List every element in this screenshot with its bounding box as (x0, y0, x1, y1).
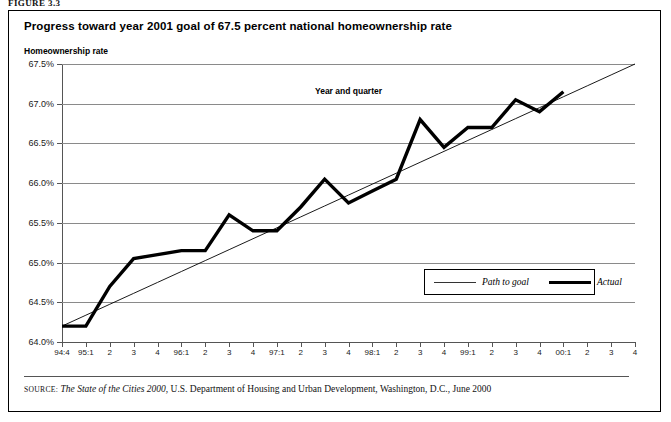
x-tick-mark (611, 342, 612, 347)
x-tick-mark (372, 342, 373, 347)
x-tick-label: 3 (513, 348, 517, 357)
y-tick-label: 67.0% (28, 99, 54, 109)
x-tick-label: 00:1 (556, 348, 572, 357)
x-tick-label: 99:1 (460, 348, 476, 357)
x-tick-label: 98:1 (365, 348, 381, 357)
y-tick-label: 66.0% (28, 178, 54, 188)
x-tick-mark (301, 342, 302, 347)
source-divider (24, 376, 629, 377)
legend-swatch-actual-icon (549, 281, 591, 284)
y-tick-label: 67.5% (28, 59, 54, 69)
x-tick-label: 4 (155, 348, 159, 357)
legend-item-path-to-goal: Path to goal (434, 277, 529, 287)
x-tick-mark (516, 342, 517, 347)
x-tick-label: 3 (131, 348, 135, 357)
x-tick-mark (229, 342, 230, 347)
x-tick-mark (158, 342, 159, 347)
y-axis-title: Homeownership rate (24, 46, 108, 56)
figure-label: FIGURE 3.3 (8, 0, 61, 8)
x-tick-mark (492, 342, 493, 347)
x-axis-title: Year and quarter (315, 86, 382, 96)
x-tick-mark (635, 342, 636, 347)
x-tick-mark (134, 342, 135, 347)
x-tick-mark (468, 342, 469, 347)
x-tick-mark (181, 342, 182, 347)
source-publication: The State of the Cities 2000 (61, 384, 166, 394)
x-tick-mark (110, 342, 111, 347)
x-tick-label: 4 (442, 348, 446, 357)
y-tick-label: 66.5% (28, 138, 54, 148)
x-tick-mark (444, 342, 445, 347)
plot-area: 64.0%64.5%65.0%65.5%66.0%66.5%67.0%67.5%… (62, 64, 635, 342)
x-tick-mark (563, 342, 564, 347)
chart-lines (62, 64, 635, 342)
y-tick-label: 64.0% (28, 337, 54, 347)
x-tick-label: 4 (251, 348, 255, 357)
source-kicker: SOURCE: (24, 385, 58, 394)
x-tick-mark (253, 342, 254, 347)
y-tick-label: 65.0% (28, 258, 54, 268)
x-tick-mark (349, 342, 350, 347)
x-tick-label: 2 (394, 348, 398, 357)
x-tick-mark (587, 342, 588, 347)
x-tick-mark (62, 342, 63, 347)
x-tick-label: 2 (203, 348, 207, 357)
x-tick-mark (540, 342, 541, 347)
x-tick-label: 3 (418, 348, 422, 357)
y-tick-label: 65.5% (28, 218, 54, 228)
x-tick-mark (396, 342, 397, 347)
x-tick-label: 3 (322, 348, 326, 357)
x-tick-mark (277, 342, 278, 347)
source-rest: , U.S. Department of Housing and Urban D… (166, 384, 491, 394)
x-tick-label: 96:1 (174, 348, 190, 357)
legend-item-actual: Actual (549, 277, 622, 287)
x-tick-label: 4 (633, 348, 637, 357)
x-tick-label: 97:1 (269, 348, 285, 357)
chart-title: Progress toward year 2001 goal of 67.5 p… (24, 20, 452, 32)
x-tick-label: 95:1 (78, 348, 94, 357)
y-tick-label: 64.5% (28, 297, 54, 307)
legend-label-path-to-goal: Path to goal (482, 277, 529, 287)
x-tick-label: 4 (537, 348, 541, 357)
x-tick-label: 2 (299, 348, 303, 357)
x-tick-mark (420, 342, 421, 347)
x-tick-label: 3 (609, 348, 613, 357)
x-tick-label: 4 (346, 348, 350, 357)
x-tick-label: 2 (585, 348, 589, 357)
x-tick-mark (205, 342, 206, 347)
x-tick-label: 94:4 (54, 348, 70, 357)
x-tick-mark (325, 342, 326, 347)
chart-legend: Path to goal Actual (424, 269, 595, 295)
x-tick-mark (86, 342, 87, 347)
legend-label-actual: Actual (597, 277, 622, 287)
source-note: SOURCE: The State of the Cities 2000, U.… (24, 384, 491, 394)
x-tick-label: 2 (108, 348, 112, 357)
x-tick-label: 3 (227, 348, 231, 357)
x-tick-label: 2 (490, 348, 494, 357)
legend-swatch-path-to-goal-icon (434, 282, 476, 283)
